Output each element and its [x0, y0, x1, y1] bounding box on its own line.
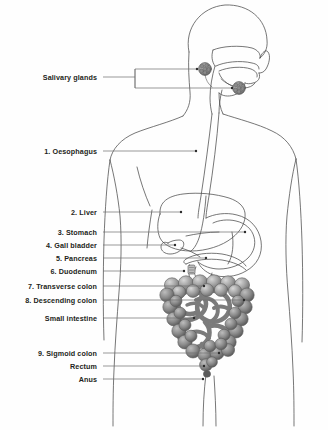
salivary-gland-parotid — [199, 63, 212, 87]
label-duodenum: 6. Duodenum — [50, 267, 97, 276]
label-descending-colon: 8. Descending colon — [25, 296, 97, 305]
transverse-colon-shape — [164, 275, 249, 299]
anatomy-illustration — [0, 0, 328, 430]
label-rectum: Rectum — [70, 362, 97, 371]
label-small-intestine: Small intestine — [45, 314, 97, 323]
label-sigmoid-colon: 9. Sigmoid colon — [38, 349, 97, 358]
label-gall-bladder: 4. Gall bladder — [46, 241, 97, 250]
anus-shape — [203, 371, 210, 377]
label-pancreas: 5. Pancreas — [56, 254, 97, 263]
label-liver: 2. Liver — [71, 208, 97, 217]
label-transverse-colon: 7. Transverse colon — [28, 282, 97, 291]
label-anus: Anus — [79, 375, 97, 384]
leader-salivary-upper — [103, 69, 197, 77]
liver-shape — [158, 193, 245, 251]
oesophagus-tube — [198, 113, 219, 218]
stomach-shape — [198, 214, 261, 277]
leader-salivary-lower — [135, 77, 232, 88]
label-oesophagus: 1. Oesophagus — [44, 147, 97, 156]
digestive-system-figure: Salivary glands 1. Oesophagus 2. Liver 3… — [0, 0, 328, 430]
label-stomach: 3. Stomach — [58, 228, 97, 237]
ascending-colon-shape — [160, 288, 200, 358]
oral-cavity — [210, 46, 260, 114]
label-salivary-glands: Salivary glands — [43, 73, 97, 82]
